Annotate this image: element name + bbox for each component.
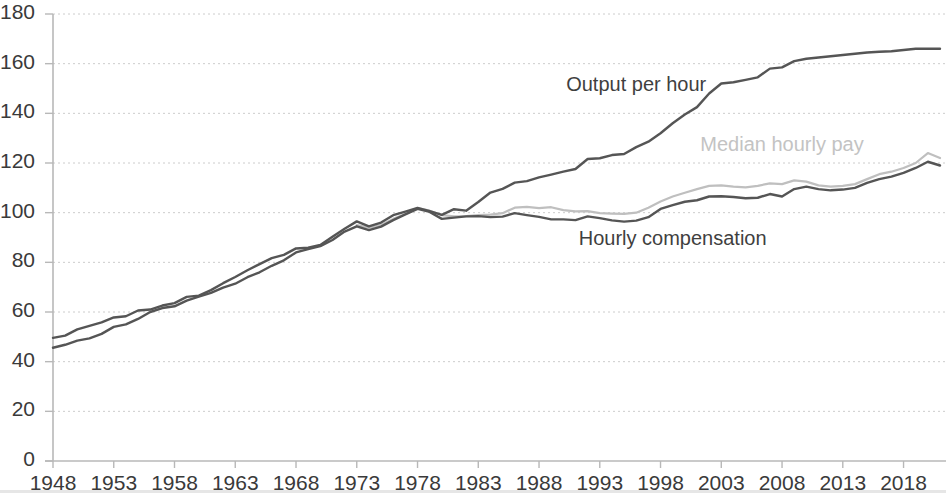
y-axis-label: 20 [0,397,35,421]
axis-lines [45,14,946,461]
output-per-hour-label: Output per hour [566,73,706,96]
y-axis-label: 80 [0,248,35,272]
y-axis-label: 140 [0,99,35,123]
series-line [53,49,940,338]
y-axis-label: 40 [0,348,35,372]
y-axis-label: 120 [0,149,35,173]
y-axis-label: 180 [0,0,35,24]
y-axis-label: 100 [0,199,35,223]
x-axis-ticks [53,461,904,468]
line-chart-plot [0,0,946,493]
y-axis-label: 160 [0,50,35,74]
chart-container: 020406080100120140160180 194819531958196… [0,0,946,493]
y-axis-ticks [45,14,53,461]
y-axis-label: 60 [0,298,35,322]
y-axis-label: 0 [0,447,35,471]
median-hourly-pay-label: Median hourly pay [700,133,863,156]
series-lines [53,49,940,348]
hourly-compensation-label: Hourly compensation [579,227,767,250]
